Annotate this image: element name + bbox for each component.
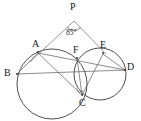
- segment-b-d: [17, 70, 125, 74]
- angle-label-p: 85°: [66, 29, 77, 37]
- point-label-b: B: [4, 68, 11, 78]
- segment-a-b: [17, 53, 38, 74]
- point-label-c: C: [79, 98, 86, 108]
- point-label-p: P: [70, 2, 76, 12]
- segment-a-c: [38, 53, 82, 95]
- vertex-dot-d: [124, 69, 126, 71]
- segment-e-c: [82, 54, 103, 95]
- vertex-dot-b: [16, 73, 18, 75]
- diagram-canvas: [0, 0, 141, 121]
- vertex-dot-a: [37, 51, 39, 53]
- point-label-e: E: [100, 40, 106, 50]
- big-circle: [17, 49, 87, 119]
- vertex-dot-f: [76, 57, 78, 59]
- point-label-a: A: [32, 39, 39, 49]
- point-label-f: F: [73, 45, 79, 55]
- point-label-d: D: [127, 62, 134, 72]
- geometry-diagram: P A B C D E F 85°: [0, 0, 141, 121]
- vertex-dot-c: [81, 94, 83, 96]
- vertex-dot-e: [102, 52, 104, 54]
